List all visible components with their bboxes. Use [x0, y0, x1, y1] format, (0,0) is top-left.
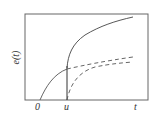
plot-frame: [25, 14, 148, 100]
curve-from-zero: [40, 69, 67, 100]
dashed-curve-from-u: [67, 62, 133, 100]
curve-total-after-u: [67, 17, 133, 68]
x-tick-zero: 0: [35, 102, 40, 112]
x-tick-t: t: [134, 102, 137, 112]
dashed-continuation-curve: [67, 57, 133, 69]
y-axis-label: e(t): [10, 51, 21, 65]
x-tick-u: u: [64, 102, 69, 112]
chart-plot: [0, 0, 158, 117]
